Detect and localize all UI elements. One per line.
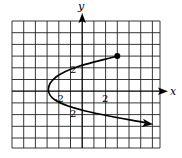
- axes: [12, 16, 164, 148]
- x-tick-label-neg2: -2: [54, 93, 64, 104]
- parabola-curve: [48, 56, 147, 123]
- grid: [12, 21, 160, 148]
- curve-label-lower: 2: [70, 108, 76, 119]
- y-axis-label: y: [77, 0, 85, 13]
- x-axis-label: x: [170, 85, 177, 98]
- x-tick-label-2: 2: [102, 93, 108, 104]
- curve-start-dot: [114, 53, 120, 59]
- parabola-graph: x y 2 -2 2 2: [0, 0, 182, 158]
- curve-label-upper: 2: [70, 64, 76, 75]
